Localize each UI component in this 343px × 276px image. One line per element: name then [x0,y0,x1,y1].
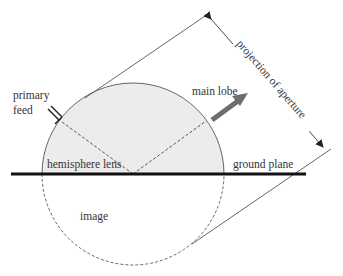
primary-feed-label-2: feed [13,104,33,116]
diagram-canvas: primary feed main lobe hemisphere lens g… [0,0,343,276]
image-label: image [80,210,108,223]
lens-diagram: primary feed main lobe hemisphere lens g… [0,0,343,276]
main-lobe-label: main lobe [192,85,238,97]
ground-plane-label: ground plane [233,158,293,171]
image-hemisphere [42,174,224,265]
primary-feed-label-1: primary [13,89,50,102]
hemisphere-lens-label: hemisphere lens [47,158,122,171]
